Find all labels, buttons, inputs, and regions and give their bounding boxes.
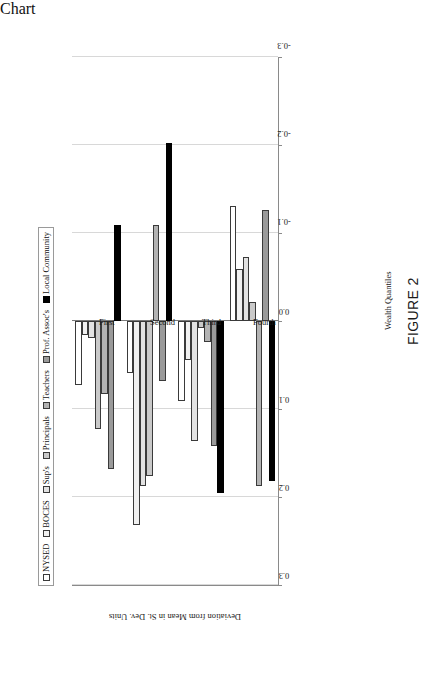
legend-swatch-icon <box>43 530 50 537</box>
chart-canvas: NYSEDBOCESSup'sPrincipalsTeachersProf. A… <box>64 42 364 642</box>
chart-legend: NYSEDBOCESSup'sPrincipalsTeachersProf. A… <box>38 227 54 586</box>
bar <box>217 321 224 493</box>
axis-tick-label: 0.2 <box>279 483 290 493</box>
legend-label: Teachers <box>41 370 51 400</box>
axis-tick-label: -0.1 <box>277 217 290 227</box>
axis-tick <box>278 233 282 234</box>
bar <box>146 321 153 476</box>
legend-label: NYSED <box>41 544 51 572</box>
axis-tick-label: -0.2 <box>277 129 290 139</box>
legend-item: Prof. Assoc's <box>41 310 51 363</box>
category-label: Second <box>150 317 175 327</box>
bar-group: Fourth <box>227 58 279 585</box>
legend-item: NYSED <box>41 544 51 581</box>
axis-tick <box>278 497 282 498</box>
legend-item: Teachers <box>41 370 51 409</box>
legend-label: Sup's <box>41 466 51 484</box>
legend-label: BOCES <box>41 500 51 527</box>
axis-tick-label: 0.1 <box>279 395 290 405</box>
bar <box>166 143 173 321</box>
figure-page: NYSEDBOCESSup'sPrincipalsTeachersProf. A… <box>0 0 428 684</box>
category-label: Fourth <box>253 317 276 327</box>
legend-label: Prof. Assoc's <box>41 310 51 354</box>
axis-tick <box>278 57 282 58</box>
legend-label: Local Community <box>41 232 51 294</box>
legend-item: Sup's <box>41 466 51 493</box>
legend-swatch-icon <box>43 486 50 493</box>
value-axis-title-wrap: Deviation from Mean in St. Dev. Units <box>72 610 278 622</box>
axis-tick-label: 0.0 <box>279 307 290 317</box>
axis-tick-label: -0.3 <box>277 41 290 51</box>
bar <box>159 321 166 381</box>
legend-swatch-icon <box>43 574 50 581</box>
bar-group: First <box>72 58 124 585</box>
bar <box>269 321 276 481</box>
axis-tick-label: 0.3 <box>279 571 290 581</box>
legend-item: Local Community <box>41 232 51 303</box>
axis-tick <box>278 321 282 322</box>
legend-item: BOCES <box>41 500 51 536</box>
axis-tick <box>278 585 282 586</box>
legend-swatch-icon <box>43 296 50 303</box>
axis-tick <box>278 409 282 410</box>
axis-tick <box>278 145 282 146</box>
category-axis-caption: Wealth Quantiles <box>383 271 393 330</box>
legend-swatch-icon <box>43 452 50 459</box>
bar <box>191 321 198 441</box>
legend-label: Principals <box>41 416 51 450</box>
bar <box>108 321 115 469</box>
gridline <box>72 56 278 57</box>
bar <box>256 321 263 486</box>
bar <box>262 210 269 321</box>
bar <box>114 225 121 321</box>
figure-caption: FIGURE 2 <box>405 277 421 345</box>
legend-swatch-icon <box>43 402 50 409</box>
category-label: Third <box>202 317 221 327</box>
value-axis-title: Deviation from Mean in St. Dev. Units <box>72 612 278 622</box>
bar-group: Third <box>175 58 227 585</box>
bar <box>153 225 160 321</box>
plot-area: FirstSecondThirdFourth <box>72 58 278 586</box>
bar-group: Second <box>124 58 176 585</box>
legend-item: Principals <box>41 416 51 459</box>
legend-swatch-icon <box>43 356 50 363</box>
category-label: First <box>99 317 115 327</box>
